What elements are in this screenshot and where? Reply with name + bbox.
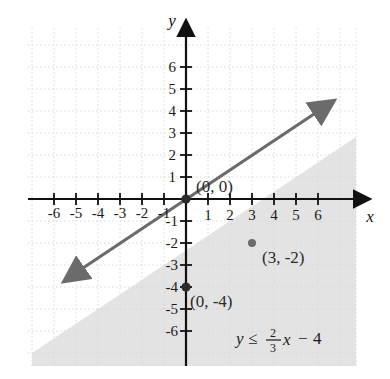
y-axis-label: y bbox=[166, 11, 176, 30]
inequality-relation: ≤ bbox=[248, 329, 257, 348]
fraction-numerator: 2 bbox=[270, 326, 276, 340]
y-tick-5: 5 bbox=[169, 81, 177, 97]
inequality-minus: − bbox=[298, 329, 308, 348]
inequality-variable: x bbox=[282, 330, 291, 349]
y-tick--2: -2 bbox=[166, 235, 179, 251]
x-tick--6: -6 bbox=[48, 205, 61, 221]
x-axis-label: x bbox=[365, 207, 374, 226]
point-origin bbox=[181, 194, 190, 203]
point-0-neg4 bbox=[181, 282, 190, 291]
x-tick-4: 4 bbox=[270, 207, 278, 223]
x-tick-2: 2 bbox=[226, 207, 234, 223]
y-tick-2: 2 bbox=[169, 147, 177, 163]
y-tick-6: 6 bbox=[169, 59, 177, 75]
inequality-constant: 4 bbox=[313, 329, 322, 348]
y-tick--4: -4 bbox=[166, 279, 179, 295]
y-tick--1: -1 bbox=[166, 213, 179, 229]
fraction-denominator: 3 bbox=[270, 341, 276, 355]
y-tick-3: 3 bbox=[169, 125, 177, 141]
y-tick--6: -6 bbox=[166, 323, 179, 339]
point-label-origin: (0, 0) bbox=[196, 177, 233, 196]
x-tick--2: -2 bbox=[136, 205, 149, 221]
point-label-3-neg2: (3, -2) bbox=[262, 248, 304, 267]
y-tick-4: 4 bbox=[169, 103, 177, 119]
inequality-lhs: y bbox=[234, 329, 244, 348]
x-tick--5: -5 bbox=[70, 205, 83, 221]
y-tick-1: 1 bbox=[169, 169, 177, 185]
x-tick-1: 1 bbox=[204, 207, 212, 223]
y-tick--3: -3 bbox=[166, 257, 179, 273]
y-tick--5: -5 bbox=[166, 301, 179, 317]
coordinate-plane: -6 -5 -4 -3 -2 -1 1 2 3 4 5 6 6 5 4 3 2 … bbox=[0, 0, 390, 379]
point-3-neg2 bbox=[248, 239, 256, 247]
x-tick-3: 3 bbox=[248, 207, 256, 223]
x-tick-5: 5 bbox=[292, 207, 300, 223]
x-tick-6: 6 bbox=[314, 207, 322, 223]
point-label-0-neg4: (0, -4) bbox=[190, 292, 232, 311]
graph-figure: -6 -5 -4 -3 -2 -1 1 2 3 4 5 6 6 5 4 3 2 … bbox=[0, 0, 390, 379]
x-tick--4: -4 bbox=[92, 205, 105, 221]
x-tick--3: -3 bbox=[114, 205, 127, 221]
